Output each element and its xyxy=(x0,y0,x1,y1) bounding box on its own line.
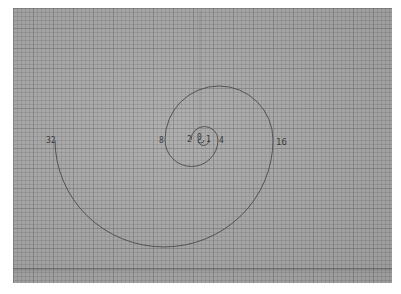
label-0: 0 xyxy=(197,134,202,142)
spiral-drawing xyxy=(0,0,401,294)
label-16: 16 xyxy=(276,138,287,146)
label-4: 4 xyxy=(219,137,224,145)
label-1: 1 xyxy=(206,136,211,144)
label-8: 8 xyxy=(159,137,164,145)
label-32: 32 xyxy=(46,137,56,145)
label-2: 2 xyxy=(187,136,192,144)
